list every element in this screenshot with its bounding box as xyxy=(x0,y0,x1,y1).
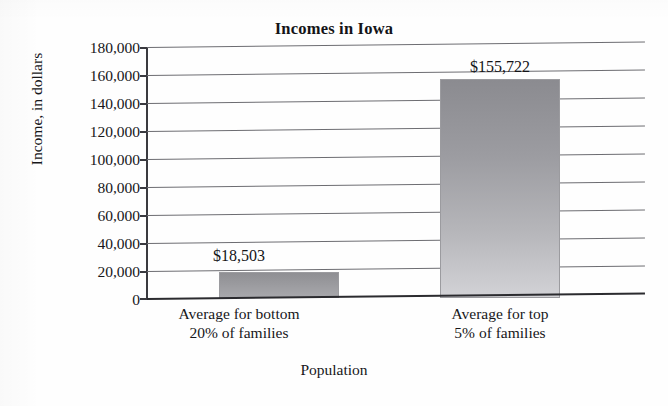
gridline-120000 xyxy=(147,126,645,132)
x-category-label-bottom-20: Average for bottom 20% of families xyxy=(139,305,339,343)
x-category-label-top-5-line2: 5% of families xyxy=(400,324,600,343)
gridline-40000 xyxy=(147,238,645,244)
y-tick-label-160000: 160,000 xyxy=(52,68,140,84)
gridline-140000 xyxy=(147,98,645,104)
y-tick-label-180000: 180,000 xyxy=(52,40,140,56)
y-tick-label-120000: 120,000 xyxy=(52,124,140,140)
x-category-label-bottom-20-line2: 20% of families xyxy=(139,324,339,343)
gridline-180000 xyxy=(147,42,645,48)
x-category-label-top-5-line1: Average for top xyxy=(400,305,600,324)
data-label-bottom-20: $18,503 xyxy=(179,247,299,265)
gridline-160000 xyxy=(147,70,645,76)
y-tick-label-80000: 80,000 xyxy=(52,180,140,196)
gridline-80000 xyxy=(147,182,645,188)
gridline-100000 xyxy=(147,154,645,160)
gridline-60000 xyxy=(147,210,645,216)
y-tick-label-100000: 100,000 xyxy=(52,152,140,168)
y-tick-label-140000: 140,000 xyxy=(52,96,140,112)
y-tick-label-20000: 20,000 xyxy=(52,264,140,280)
x-category-label-top-5: Average for top 5% of families xyxy=(400,305,600,343)
y-tick-label-40000: 40,000 xyxy=(52,236,140,252)
x-axis-title: Population xyxy=(0,361,668,379)
y-tick-label-0: 0 xyxy=(52,292,140,308)
data-label-top-5: $155,722 xyxy=(440,58,560,76)
bar-average-bottom-20[interactable] xyxy=(219,272,339,298)
y-tick-label-60000: 60,000 xyxy=(52,208,140,224)
x-category-label-bottom-20-line1: Average for bottom xyxy=(139,305,339,324)
y-axis-title: Income, in dollars xyxy=(28,9,46,209)
bar-average-top-5[interactable] xyxy=(440,79,560,298)
bar-chart-figure: Incomes in Iowa Income, in dollars 180,0… xyxy=(0,0,668,406)
y-axis-tick-label-group: 180,000 160,000 140,000 120,000 100,000 … xyxy=(52,0,140,406)
